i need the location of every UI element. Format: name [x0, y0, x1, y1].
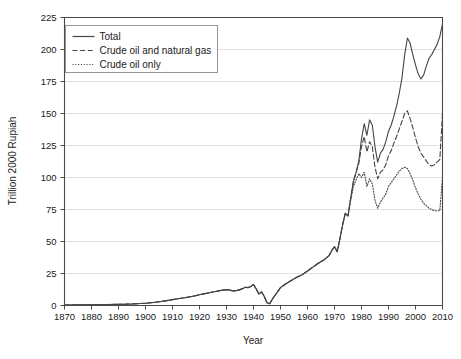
y-tick-label: 100 [41, 172, 57, 183]
x-tick-label: 1890 [108, 311, 129, 322]
x-tick-label: 1980 [351, 311, 372, 322]
legend-label: Crude oil only [100, 59, 161, 70]
line-chart: 0255075100125150175200225 18701880189019… [0, 0, 461, 359]
legend-label: Total [100, 31, 121, 42]
x-tick-label: 1970 [324, 311, 345, 322]
x-tick-label: 1930 [216, 311, 237, 322]
y-tick-label: 75 [46, 204, 57, 215]
x-tick-label: 2000 [405, 311, 426, 322]
x-tick-label: 1960 [297, 311, 318, 322]
x-tick-label: 1990 [378, 311, 399, 322]
y-tick-label: 25 [46, 268, 57, 279]
y-axis-title: Trillion 2000 Rupiah [7, 117, 18, 206]
x-tick-label: 1870 [54, 311, 75, 322]
x-tick-label: 1920 [189, 311, 210, 322]
x-axis-tick-labels: 1870188018901900191019201930194019501960… [54, 311, 453, 322]
chart-legend: TotalCrude oil and natural gasCrude oil … [66, 26, 218, 73]
y-tick-label: 0 [51, 300, 56, 311]
y-tick-label: 150 [41, 108, 57, 119]
x-axis-title: Year [243, 335, 264, 346]
y-tick-label: 225 [41, 12, 57, 23]
x-tick-label: 1910 [162, 311, 183, 322]
x-tick-label: 1900 [135, 311, 156, 322]
y-tick-label: 200 [41, 44, 57, 55]
x-tick-label: 1940 [243, 311, 264, 322]
x-tick-label: 1880 [81, 311, 102, 322]
x-tick-label: 1950 [270, 311, 291, 322]
chart-container: 0255075100125150175200225 18701880189019… [0, 0, 461, 359]
x-tick-label: 2010 [432, 311, 453, 322]
y-tick-label: 175 [41, 76, 57, 87]
y-tick-label: 125 [41, 140, 57, 151]
y-tick-label: 50 [46, 236, 57, 247]
legend-label: Crude oil and natural gas [100, 45, 212, 56]
